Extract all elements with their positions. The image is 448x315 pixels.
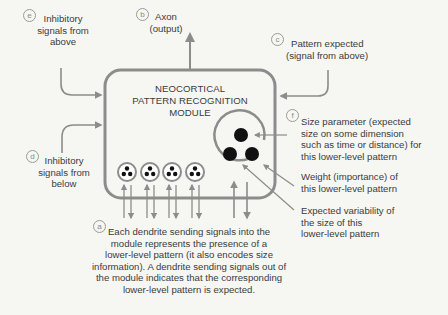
dendrite-circle <box>118 163 136 181</box>
weight-dot-right <box>245 147 259 161</box>
label-size-parameter: Size parameter (expected size on some di… <box>301 116 446 162</box>
label-line: this lower-level pattern <box>301 183 441 195</box>
pattern-dot <box>148 166 152 170</box>
pattern-dot <box>196 172 200 176</box>
pattern-dot <box>170 166 174 170</box>
pattern-dot <box>122 172 126 176</box>
module-title-line: MODULE <box>130 107 250 119</box>
weight-pointer <box>264 165 294 186</box>
label-line: size on some dimension <box>301 128 446 140</box>
dendrite-circle <box>141 163 159 181</box>
size-dot <box>234 128 248 142</box>
dendrite-pattern <box>141 163 159 218</box>
module-title: NEOCORTICAL PATTERN RECOGNITION MODULE <box>130 83 250 119</box>
label-line: above <box>30 36 96 48</box>
label-line: signals from <box>34 167 94 179</box>
label-line: this lower-level pattern <box>301 151 446 163</box>
label-dendrite-description: Each dendrite sending signals into the m… <box>78 226 300 295</box>
module-title-line: PATTERN RECOGNITION <box>130 95 250 107</box>
label-line: information). A dendrite sending signals… <box>78 261 300 273</box>
label-line: lower-level pattern (it also encodes siz… <box>78 249 300 261</box>
dendrite-pattern <box>118 163 136 218</box>
label-line: Each dendrite sending signals into the <box>78 226 300 238</box>
weight-dot-left <box>223 147 237 161</box>
pattern-dot <box>125 166 129 170</box>
pattern-dot <box>145 172 149 176</box>
label-line: Pattern expected <box>286 38 386 50</box>
label-pattern-expected: Pattern expected (signal from above) <box>286 38 386 61</box>
inhibitory-below-arrow <box>62 125 101 153</box>
label-variability: Expected variability of the size of this… <box>301 205 441 240</box>
label-line: Axon <box>146 11 186 23</box>
label-line: such as time or distance) for <box>301 139 446 151</box>
label-line: below <box>34 178 94 190</box>
dendrite-pattern <box>163 163 181 218</box>
dendrite-pattern <box>186 163 204 218</box>
dendrite-circle <box>186 163 204 181</box>
label-line: Expected variability of <box>301 205 441 217</box>
label-weight: Weight (importance) of this lower-level … <box>301 171 441 194</box>
label-axon: Axon (output) <box>146 11 186 34</box>
label-badge-f: f <box>286 109 299 122</box>
label-line: Weight (importance) of <box>301 171 441 183</box>
dendrite-circle <box>163 163 181 181</box>
pattern-dot <box>193 166 197 170</box>
module-title-line: NEOCORTICAL <box>130 83 250 95</box>
variability-pointer <box>243 165 294 210</box>
inhibitory-above-arrow <box>61 68 101 95</box>
label-line: module represents the presence of a <box>78 238 300 250</box>
lower-level-pattern-detail <box>214 110 294 210</box>
label-line: the size of this <box>301 217 441 229</box>
label-line: signals from <box>30 25 96 37</box>
label-line: lower-level pattern <box>301 228 441 240</box>
label-inhibitory-above: Inhibitory signals from above <box>30 13 96 48</box>
label-line: Inhibitory <box>34 155 94 167</box>
label-inhibitory-below: Inhibitory signals from below <box>34 155 94 190</box>
pattern-expected-arrow <box>281 70 328 96</box>
label-line: Inhibitory <box>30 13 96 25</box>
label-badge-c: c <box>271 33 284 46</box>
pattern-dot <box>167 172 171 176</box>
label-line: lower-level pattern is expected. <box>78 284 300 296</box>
pattern-dot <box>128 172 132 176</box>
label-line: Size parameter (expected <box>301 116 446 128</box>
label-line: the module indicates that the correspond… <box>78 272 300 284</box>
pattern-dot <box>173 172 177 176</box>
pattern-dot <box>190 172 194 176</box>
pattern-dot <box>151 172 155 176</box>
label-line: (output) <box>146 23 186 35</box>
label-line: (signal from above) <box>286 50 386 62</box>
